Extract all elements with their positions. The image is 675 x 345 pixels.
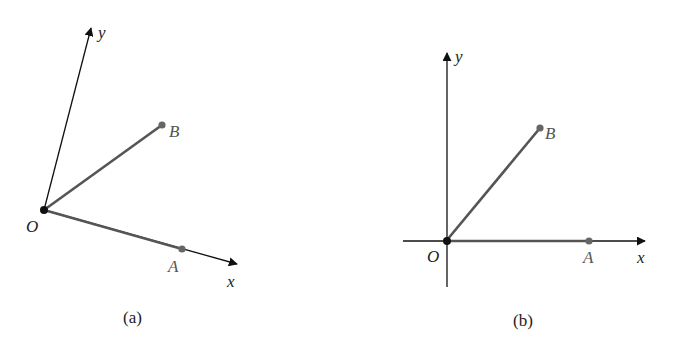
caption-b: (b) xyxy=(513,311,533,330)
figure-canvas: y x B A O (a) y x B A O (b) xyxy=(0,0,675,345)
x-axis-label: x xyxy=(226,272,235,291)
segment-ob xyxy=(44,125,162,210)
point-b-label: B xyxy=(169,122,180,141)
x-axis-label: x xyxy=(636,248,645,267)
point-b xyxy=(536,124,543,131)
figure-a: y x B A O (a) xyxy=(26,23,237,327)
figure-b: y x B A O (b) xyxy=(403,47,645,330)
point-origin xyxy=(443,237,451,245)
y-axis-label: y xyxy=(96,23,106,42)
point-a-label: A xyxy=(167,257,179,276)
point-a xyxy=(585,237,592,244)
point-b xyxy=(158,121,165,128)
y-axis-label: y xyxy=(453,47,463,66)
caption-a: (a) xyxy=(123,308,142,327)
segment-ob xyxy=(447,128,540,240)
point-a xyxy=(178,245,185,252)
point-origin xyxy=(40,206,48,214)
segment-oa xyxy=(44,210,182,249)
point-b-label: B xyxy=(545,124,556,143)
point-a-label: A xyxy=(582,248,594,267)
origin-label: O xyxy=(26,217,38,236)
origin-label: O xyxy=(427,247,439,266)
